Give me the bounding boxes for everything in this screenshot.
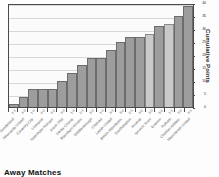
match-score-label: 5-2 [158, 109, 164, 115]
bar [145, 34, 155, 107]
y-axis-title-label: Cumulative Points [205, 29, 211, 83]
match-score-label: 3-0 [90, 109, 96, 115]
bar [154, 26, 164, 107]
match-score-label: 3-2 [139, 109, 145, 115]
plot-area [8, 4, 194, 108]
y-tick-mark [193, 82, 195, 83]
bar [77, 65, 87, 107]
y-tick-mark [193, 43, 195, 44]
bar [96, 58, 106, 107]
bar [116, 42, 126, 107]
bar [125, 37, 135, 107]
match-score-label: 0-2 [50, 109, 56, 115]
x-axis-label: Manchester United [184, 118, 194, 166]
match-score-label: 1-1 [11, 109, 17, 115]
bar [164, 24, 174, 107]
y-tick-mark [193, 56, 195, 57]
chart-title: Away Matches [4, 168, 61, 177]
bar [67, 73, 77, 107]
match-score-label: 3-0 [148, 109, 154, 115]
match-score-label: 2-1 [129, 109, 135, 115]
match-score-label: 1-0 [99, 109, 105, 115]
y-tick-mark [193, 30, 195, 31]
match-score-label: 1-1 [168, 109, 174, 115]
y-tick-mark [193, 17, 195, 18]
match-score-label: 2-1 [80, 109, 86, 115]
match-score-label: 0-2 [41, 109, 47, 115]
match-score-label: 3-1 [187, 109, 193, 115]
match-score-label: 3-0 [178, 109, 184, 115]
bar [9, 104, 19, 107]
bar [28, 89, 38, 107]
bar [135, 37, 145, 107]
y-axis-title: Cumulative Points [201, 4, 215, 108]
bar [19, 97, 29, 107]
bar [38, 89, 48, 107]
y-tick-mark [193, 4, 195, 5]
bar [174, 16, 184, 107]
match-score-label: 3-0 [60, 109, 66, 115]
bar [48, 89, 58, 107]
match-score-label: 3-2 [119, 109, 125, 115]
y-tick-mark [193, 95, 195, 96]
match-score-label: 4-0 [21, 109, 27, 115]
bar [87, 58, 97, 107]
x-axis-labels: SunderlandNewcastle UnitedCoventry CityL… [8, 118, 194, 166]
match-score-label: 3-1 [109, 109, 115, 115]
bar [57, 81, 67, 107]
bar [106, 50, 116, 107]
bar [183, 6, 193, 107]
bar-series [9, 5, 193, 107]
match-score-label: 1-0 [70, 109, 76, 115]
y-tick-mark [193, 69, 195, 70]
chart-root: 0510152025303540 Cumulative Points 1-14-… [0, 0, 219, 177]
match-score-label: 1-0 [31, 109, 37, 115]
